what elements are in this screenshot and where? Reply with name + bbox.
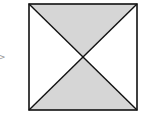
bottom-shaded-triangle	[29, 57, 137, 110]
top-shaded-triangle	[29, 4, 137, 57]
diagonal-square-figure	[0, 0, 152, 116]
